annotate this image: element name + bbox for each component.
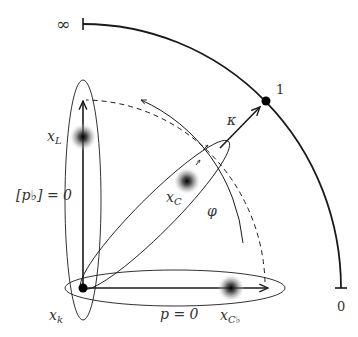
origin-point — [79, 284, 88, 293]
scale-arc — [83, 24, 341, 288]
moduli-diagram: ∞ 1 0 xL xC xk xC♭ [p♭] = 0 p = 0 κ φ — [0, 0, 358, 337]
kappa-arrow — [220, 107, 260, 148]
point-one — [262, 97, 271, 106]
one-label: 1 — [276, 82, 284, 97]
label-x-l: xL — [47, 128, 62, 146]
zero-label: 0 — [337, 299, 345, 314]
blob-center — [173, 167, 201, 195]
infinity-label: ∞ — [56, 14, 70, 34]
blob-flat — [217, 274, 245, 302]
label-vertical-condition: [p♭] = 0 — [16, 187, 72, 203]
label-phi: φ — [207, 203, 217, 219]
blob-left — [69, 123, 97, 151]
ellipse-orientation-arrow — [196, 160, 200, 165]
label-x-k: xk — [49, 307, 63, 325]
label-x-cflat: xC♭ — [220, 307, 241, 325]
label-kappa: κ — [226, 112, 236, 128]
label-horizontal-condition: p = 0 — [160, 306, 199, 322]
dashed-arc — [86, 100, 265, 282]
